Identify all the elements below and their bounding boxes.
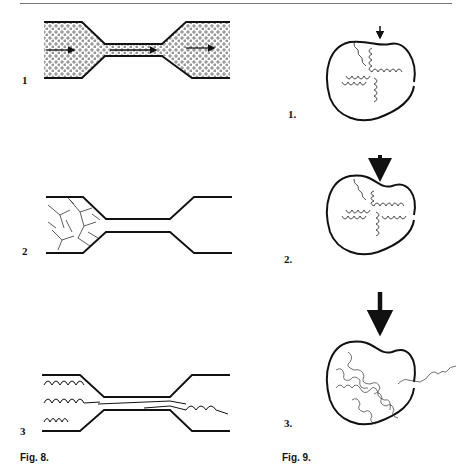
fig8-panel-2-diagram (46, 197, 232, 253)
fig8-panel-1-label: 1 (22, 74, 28, 86)
fig9-panel-2-diagram (327, 155, 415, 254)
fig9-caption: Fig. 9. (282, 452, 311, 463)
fig9-panel-3-label: 3. (284, 417, 292, 429)
fig9-panel-3-diagram (327, 292, 456, 424)
fig8-panel-1-diagram (44, 22, 230, 78)
fig8-caption: Fig. 8. (20, 452, 49, 463)
fig9-panel-1-label: 1. (288, 108, 296, 120)
fig8-panel-2-label: 2 (22, 245, 28, 257)
figures-canvas (0, 0, 465, 476)
fig8-panel-3-label: 3 (20, 425, 26, 437)
fig8-panel-3-diagram (42, 375, 230, 431)
fig9-panel-1-diagram (327, 26, 415, 120)
fig9-panel-2-label: 2. (284, 253, 292, 265)
